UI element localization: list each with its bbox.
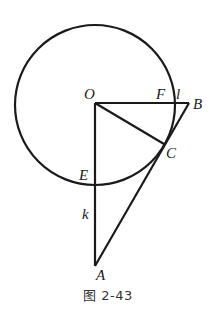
geometry-figure: O F l B C E k A xyxy=(0,0,216,310)
label-a: A xyxy=(95,267,106,283)
label-line-l: l xyxy=(176,86,180,102)
label-f: F xyxy=(155,86,166,102)
label-c: C xyxy=(166,145,177,161)
label-b: B xyxy=(193,96,202,112)
label-e: E xyxy=(78,167,88,183)
label-line-k: k xyxy=(82,206,89,222)
segment-oc xyxy=(95,103,164,144)
figure-caption: 图 2-43 xyxy=(0,285,216,304)
label-o: O xyxy=(84,86,95,102)
